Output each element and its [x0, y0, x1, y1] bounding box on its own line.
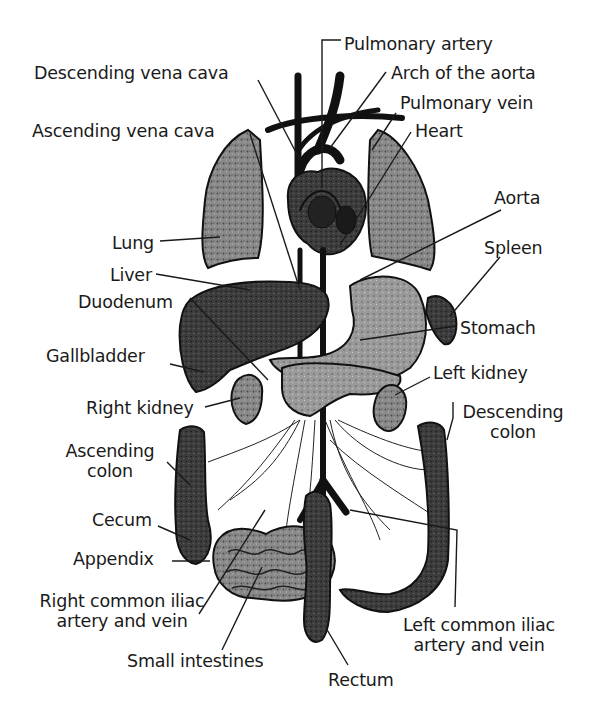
label-ascending-colon: Ascendingcolon [66, 441, 155, 481]
ascending-colon-organ [175, 426, 210, 564]
label-spleen: Spleen [484, 238, 543, 258]
label-gallbladder: Gallbladder [46, 346, 145, 366]
label-lung: Lung [112, 233, 154, 253]
label-stomach: Stomach [460, 318, 536, 338]
heart-organ [288, 149, 366, 255]
label-aorta: Aorta [494, 188, 540, 208]
label-descending-colon: Descendingcolon [462, 402, 563, 442]
label-left-kidney: Left kidney [433, 363, 528, 383]
label-pulmonary-artery: Pulmonary artery [344, 34, 493, 54]
label-descending-vena-cava: Descending vena cava [34, 63, 229, 83]
leader-line-spleen [450, 257, 500, 316]
label-small-intestines: Small intestines [127, 651, 263, 671]
label-ascending-vena-cava: Ascending vena cava [32, 121, 214, 141]
label-liver: Liver [110, 265, 152, 285]
label-duodenum: Duodenum [78, 292, 173, 312]
label-left-common-iliac: Left common iliacartery and vein [403, 615, 555, 655]
leader-line-descending-colon [447, 402, 453, 440]
label-cecum: Cecum [92, 510, 152, 530]
descending-colon-organ [340, 423, 449, 612]
label-pulmonary-vein: Pulmonary vein [400, 93, 533, 113]
leader-line-rectum [326, 628, 348, 665]
label-rectum: Rectum [328, 670, 394, 690]
sigmoid-colon-organ [304, 492, 332, 642]
label-heart: Heart [415, 121, 463, 141]
spleen-organ [426, 296, 456, 344]
right-lung [202, 130, 262, 268]
label-appendix: Appendix [73, 549, 154, 569]
left-lung [368, 130, 434, 270]
label-arch-of-the-aorta: Arch of the aorta [391, 63, 536, 83]
label-right-kidney: Right kidney [86, 398, 194, 418]
label-right-common-iliac: Right common iliacartery and vein [40, 591, 205, 631]
leader-line-liver [156, 274, 250, 290]
